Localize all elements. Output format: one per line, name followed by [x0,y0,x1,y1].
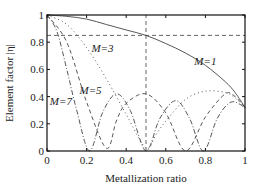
plot-lines [47,15,245,151]
curve-label: M=5 [79,84,103,96]
x-tick-label: 0.8 [199,154,213,166]
axis-ticks: 00.20.40.60.8100.20.40.60.81 [30,9,248,166]
x-tick-label: 0 [44,154,50,166]
curve-label: M=3 [90,42,114,54]
y-tick-label: 0.6 [30,63,44,75]
element-factor-chart: 00.20.40.60.8100.20.40.60.81 M=1M=3M=5M=… [0,0,259,188]
x-tick-label: 0.4 [119,154,133,166]
y-tick-label: 0.8 [30,36,44,48]
curve-label: M=7 [49,95,73,107]
x-tick-label: 1 [242,154,248,166]
y-tick-label: 1 [39,9,45,21]
curve-labels: M=1M=3M=5M=7 [49,42,217,107]
y-tick-label: 0 [39,145,45,157]
y-axis-label: Element factor |η| [3,44,15,122]
y-tick-label: 0.4 [30,91,44,103]
x-tick-label: 0.2 [80,154,94,166]
x-axis-label: Metallization ratio [105,172,187,184]
x-tick-label: 0.6 [159,154,173,166]
y-tick-label: 0.2 [30,118,44,130]
curve-label: M=1 [193,55,216,67]
